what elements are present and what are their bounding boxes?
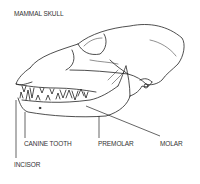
label-molar: MOLAR [160,140,183,147]
label-canine-tooth: CANINE TOOTH [24,140,72,147]
mandible-outline [18,96,130,117]
cranium-outline [30,25,184,85]
skull-illustration [0,0,200,184]
label-incisor: INCISOR [14,161,40,168]
molar-leader [86,106,160,136]
label-premolar: PREMOLAR [98,140,134,147]
